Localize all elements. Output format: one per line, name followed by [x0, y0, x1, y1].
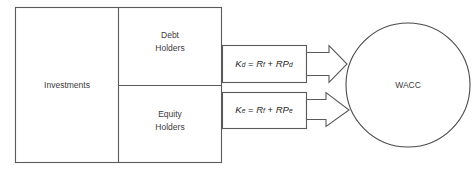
- debt-holders-label-line1: Debt: [161, 30, 180, 40]
- diagram-svg: Investments Debt Holders Equity Holders …: [0, 0, 476, 172]
- equity-to-wacc-arrow: [307, 93, 350, 127]
- equity-holders-label-line2: Holders: [155, 122, 184, 132]
- investments-label: Investments: [44, 80, 90, 90]
- diagram-canvas: Investments Debt Holders Equity Holders …: [0, 0, 476, 172]
- debt-to-wacc-arrow: [307, 46, 348, 83]
- equity-holders-label-line1: Equity: [158, 109, 182, 119]
- wacc-label: WACC: [395, 80, 421, 90]
- debt-holders-label-line2: Holders: [155, 43, 184, 53]
